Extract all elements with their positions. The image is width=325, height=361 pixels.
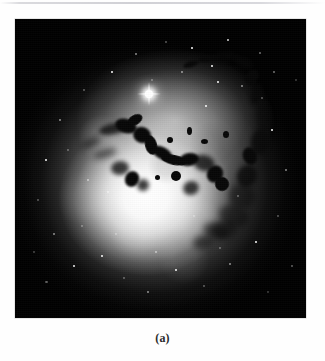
background-star bbox=[45, 281, 48, 283]
dust-filament bbox=[181, 179, 201, 197]
background-star bbox=[155, 251, 157, 253]
astronomical-photograph bbox=[15, 19, 306, 318]
background-star bbox=[227, 39, 229, 41]
background-star bbox=[273, 71, 275, 73]
background-star bbox=[277, 215, 279, 217]
background-star bbox=[59, 119, 61, 121]
dust-filament bbox=[213, 175, 231, 193]
background-star bbox=[259, 52, 261, 54]
background-star bbox=[101, 255, 103, 257]
galaxy-core bbox=[15, 19, 306, 318]
background-star bbox=[165, 41, 167, 43]
figure-page: (a) bbox=[0, 0, 325, 361]
background-star bbox=[45, 159, 47, 161]
background-star bbox=[147, 291, 149, 293]
background-star bbox=[255, 241, 257, 243]
dust-filament bbox=[192, 233, 216, 251]
background-star bbox=[261, 97, 263, 99]
background-star bbox=[81, 225, 83, 227]
background-star bbox=[229, 263, 231, 265]
background-star bbox=[151, 79, 153, 81]
dust-filament bbox=[113, 116, 138, 136]
background-star bbox=[83, 89, 85, 91]
background-star bbox=[33, 251, 35, 253]
dust-filament bbox=[160, 152, 188, 167]
background-star bbox=[285, 169, 287, 171]
dust-filament bbox=[122, 169, 141, 189]
galaxy-upper-glow bbox=[15, 19, 306, 318]
background-star bbox=[37, 199, 39, 201]
dust-filament bbox=[110, 160, 129, 176]
background-star bbox=[87, 179, 89, 181]
dust-filament bbox=[149, 143, 174, 164]
dust-speck bbox=[155, 175, 160, 180]
background-star bbox=[131, 209, 133, 211]
dust-speck bbox=[187, 127, 192, 135]
dust-filament bbox=[92, 146, 118, 161]
background-star bbox=[237, 195, 239, 197]
dust-filament bbox=[215, 51, 242, 62]
background-star bbox=[67, 149, 69, 151]
background-star bbox=[241, 85, 243, 87]
galaxy-mottled-texture bbox=[15, 19, 306, 318]
dust-speck bbox=[223, 131, 229, 138]
dust-filament bbox=[191, 152, 217, 173]
background-star bbox=[73, 265, 75, 267]
galaxy-halo bbox=[15, 19, 306, 318]
dust-filament bbox=[240, 145, 259, 167]
star-core bbox=[145, 90, 153, 98]
dust-filament bbox=[198, 54, 221, 64]
dust-speck bbox=[167, 137, 173, 143]
dust-filament bbox=[182, 59, 199, 70]
dust-filament bbox=[131, 124, 154, 146]
background-star bbox=[267, 291, 269, 293]
foreground-star bbox=[137, 82, 161, 106]
background-star bbox=[211, 65, 213, 67]
dust-speck bbox=[201, 139, 208, 144]
dust-filament bbox=[178, 151, 200, 167]
background-star bbox=[217, 81, 219, 83]
background-star bbox=[181, 71, 183, 73]
scan-grain-overlay bbox=[15, 19, 306, 318]
background-star bbox=[175, 269, 177, 271]
background-star bbox=[123, 277, 125, 279]
photo-vignette bbox=[15, 19, 306, 318]
dust-filament bbox=[203, 162, 226, 186]
dust-filament bbox=[216, 201, 251, 231]
background-star bbox=[111, 71, 113, 73]
dust-filament bbox=[210, 219, 238, 240]
background-star bbox=[135, 53, 137, 55]
dust-filament bbox=[249, 128, 271, 157]
dust-filament bbox=[136, 178, 150, 192]
background-star bbox=[291, 265, 293, 267]
background-star bbox=[193, 215, 195, 217]
background-star bbox=[203, 285, 205, 287]
background-star bbox=[53, 233, 55, 235]
dust-filament bbox=[232, 53, 255, 73]
scan-artifact-line bbox=[0, 2, 325, 4]
dust-filament bbox=[143, 134, 159, 156]
dust-filament bbox=[233, 162, 261, 191]
dust-filament bbox=[254, 102, 271, 133]
dust-filament bbox=[126, 112, 145, 129]
background-star bbox=[219, 247, 221, 249]
background-star bbox=[271, 129, 273, 131]
dust-filament bbox=[98, 120, 130, 137]
dust-filament bbox=[171, 171, 181, 181]
background-star bbox=[163, 197, 165, 199]
dust-filament bbox=[249, 82, 265, 106]
dust-filament bbox=[224, 178, 260, 214]
dust-filament bbox=[201, 220, 230, 242]
background-star bbox=[115, 233, 117, 235]
background-star bbox=[295, 79, 297, 81]
background-star bbox=[191, 47, 193, 49]
dust-filament bbox=[242, 67, 261, 87]
figure-caption: (a) bbox=[0, 331, 325, 346]
background-star bbox=[205, 105, 207, 107]
dust-filament bbox=[80, 135, 102, 150]
background-star bbox=[107, 191, 109, 193]
